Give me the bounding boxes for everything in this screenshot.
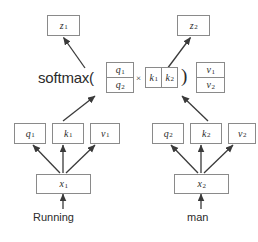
softmax-label: softmax( [38, 70, 94, 85]
x1-base: x [60, 179, 64, 189]
v1m-sub: 1 [211, 69, 215, 76]
k1v-base: k [64, 129, 68, 139]
input-word-1: Running [33, 212, 74, 223]
value-matrix-cell-v1: v1 [197, 63, 224, 77]
arrow-k2-to-attention [182, 96, 208, 121]
query-matrix-cell-q2: q2 [107, 77, 133, 92]
vector-box-q2[interactable]: q2 [152, 123, 184, 144]
x2-base: x [198, 179, 202, 189]
v2m-base: v [207, 80, 211, 90]
k2m-sub: 2 [170, 76, 174, 83]
attention-diagram-canvas: z1 z2 softmax( q1 q2 × k1 k2 ) v1 v2 q1 [0, 0, 258, 242]
q1v-base: q [26, 129, 31, 139]
k2m-base: k [166, 73, 170, 83]
x1-sub: 1 [64, 183, 68, 190]
output-box-z2[interactable]: z2 [177, 15, 210, 36]
vector-box-k2[interactable]: k2 [190, 123, 222, 144]
multiplication-symbol: × [136, 74, 141, 83]
arrow-k1-to-softmax [63, 96, 95, 121]
output-z2-sub: 2 [194, 24, 198, 31]
k1m-base: k [150, 73, 154, 83]
value-matrix-cell-v2: v2 [197, 77, 224, 92]
query-matrix-cell-q1: q1 [107, 63, 133, 77]
output-box-z1[interactable]: z1 [47, 15, 80, 36]
x2-sub: 2 [202, 183, 206, 190]
k2v-base: k [202, 129, 206, 139]
q2-sub: 2 [121, 84, 125, 91]
close-paren: ) [181, 66, 187, 85]
vector-box-k1[interactable]: k1 [52, 123, 84, 144]
arrow-x2-to-q2 [171, 145, 198, 173]
vector-box-v2[interactable]: v2 [228, 123, 256, 144]
q2v-base: q [164, 129, 169, 139]
vector-box-v1[interactable]: v1 [90, 123, 120, 144]
key-matrix-cell-k1: k1 [146, 68, 161, 87]
vector-box-q1[interactable]: q1 [14, 123, 46, 144]
arrow-layer [0, 0, 258, 242]
key-matrix[interactable]: k1 k2 [145, 67, 178, 88]
arrow-x1-to-v1 [66, 145, 95, 173]
input-word-2: man [187, 212, 208, 223]
arrow-x2-to-v2 [204, 145, 233, 173]
value-matrix[interactable]: v1 v2 [196, 62, 225, 93]
v2v-base: v [238, 129, 242, 139]
output-z1-sub: 1 [64, 24, 68, 31]
q2v-sub: 2 [169, 132, 173, 139]
embedding-box-x1[interactable]: x1 [36, 174, 91, 194]
q1-base: q [116, 65, 121, 75]
arrow-x1-to-q1 [33, 145, 60, 173]
output-z1-base: z [60, 21, 64, 31]
q1-sub: 1 [121, 69, 125, 76]
arrow-softmax-to-z1 [64, 38, 86, 69]
output-z2-base: z [190, 21, 194, 31]
v1v-base: v [101, 129, 105, 139]
embedding-box-x2[interactable]: x2 [174, 174, 229, 194]
k1m-sub: 1 [154, 76, 158, 83]
q1v-sub: 1 [31, 132, 35, 139]
query-matrix[interactable]: q1 q2 [106, 62, 134, 93]
k2v-sub: 2 [207, 132, 211, 139]
k1v-sub: 1 [69, 132, 73, 139]
key-matrix-cell-k2: k2 [161, 68, 177, 87]
v1m-base: v [207, 65, 211, 75]
v2m-sub: 2 [211, 84, 215, 91]
v1v-sub: 1 [106, 132, 110, 139]
q2-base: q [116, 80, 121, 90]
v2v-sub: 2 [243, 132, 247, 139]
